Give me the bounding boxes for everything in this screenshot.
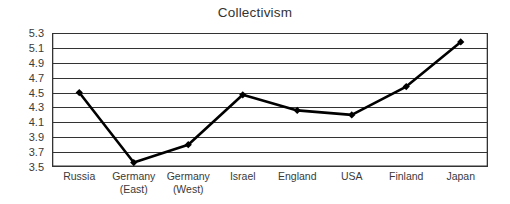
plot-svg: Russia: 4.50Germany (East): 3.56Germany …: [52, 33, 488, 167]
y-axis-label-4-3: 4.3: [29, 102, 44, 113]
x-axis-label-germany-west: Germany(West): [167, 170, 210, 196]
x-axis-label-germany-east: Germany(East): [112, 170, 155, 196]
x-axis-label-primary: England: [278, 170, 317, 182]
x-axis-label-israel: Israel: [230, 170, 256, 183]
x-axis-label-primary: USA: [341, 170, 363, 182]
x-axis-label-secondary: (West): [167, 183, 210, 196]
chart-title: Collectivism: [0, 5, 510, 20]
x-axis-label-russia: Russia: [63, 170, 95, 183]
x-axis-label-secondary: (East): [112, 183, 155, 196]
x-axis-label-primary: Russia: [63, 170, 95, 182]
x-axis-category-labels: RussiaGermany(East)Germany(West)IsraelEn…: [52, 170, 488, 204]
y-axis-label-3-7: 3.7: [29, 147, 44, 158]
y-axis-label-3-9: 3.9: [29, 132, 44, 143]
x-axis-label-primary: Germany: [112, 170, 155, 182]
plot-area: Russia: 4.50Germany (East): 3.56Germany …: [52, 33, 488, 167]
x-axis-label-primary: Germany: [167, 170, 210, 182]
x-axis-label-primary: Japan: [446, 170, 475, 182]
x-axis-label-england: England: [278, 170, 317, 183]
plot-background: [52, 33, 488, 167]
x-axis-label-usa: USA: [341, 170, 363, 183]
y-axis-tick-labels: 5.35.14.94.74.54.34.13.93.73.5: [0, 33, 48, 167]
x-axis-label-primary: Finland: [389, 170, 423, 182]
y-axis-label-4-7: 4.7: [29, 72, 44, 83]
x-axis-label-finland: Finland: [389, 170, 423, 183]
y-axis-label-4-1: 4.1: [29, 117, 44, 128]
y-axis-label-4-5: 4.5: [29, 87, 44, 98]
collectivism-chart: Collectivism 5.35.14.94.74.54.34.13.93.7…: [0, 0, 510, 204]
y-axis-label-3-5: 3.5: [29, 162, 44, 173]
y-axis-label-4-9: 4.9: [29, 57, 44, 68]
x-axis-label-japan: Japan: [446, 170, 475, 183]
y-axis-label-5-3: 5.3: [29, 28, 44, 39]
x-axis-label-primary: Israel: [230, 170, 256, 182]
y-axis-label-5-1: 5.1: [29, 42, 44, 53]
